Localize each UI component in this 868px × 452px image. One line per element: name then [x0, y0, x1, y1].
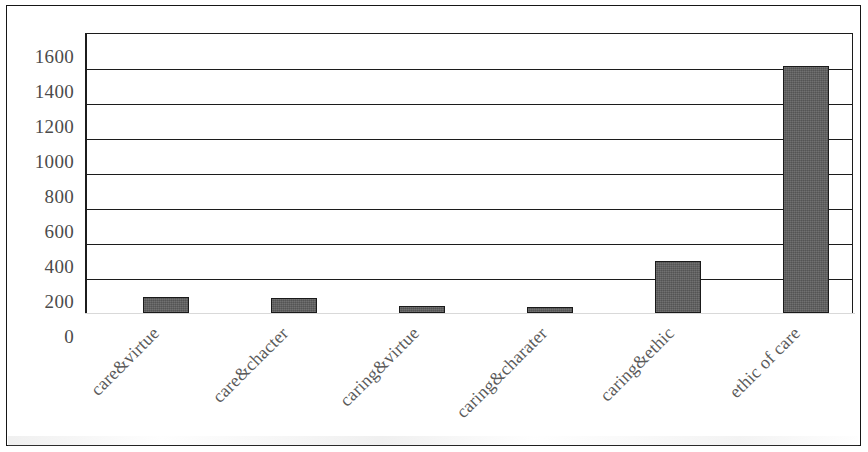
y-axis-tick-labels: 1600 1400 1200 1000 800 600 400 200 0 — [12, 24, 74, 324]
bar-chart: 1600 1400 1200 1000 800 600 400 200 0 — [0, 0, 868, 452]
bar — [271, 298, 317, 313]
x-axis-category-label: caring&virtue — [336, 323, 424, 411]
x-axis-category-label: care&chacter — [208, 323, 292, 407]
x-axis-category-label: care&virtue — [87, 323, 164, 400]
bars-layer — [87, 34, 852, 313]
y-axis-tick-label: 1400 — [12, 82, 74, 101]
x-axis-category-labels: care&virtue care&chacter caring&virtue c… — [0, 313, 868, 452]
bar — [783, 66, 829, 313]
y-axis-tick-label: 600 — [12, 222, 74, 241]
x-axis-category-label: caring&ethic — [596, 323, 679, 406]
y-axis-tick-label: 800 — [12, 187, 74, 206]
x-axis-category-label: ethic of care — [725, 323, 805, 403]
chart-screenshot: 1600 1400 1200 1000 800 600 400 200 0 — [0, 0, 868, 452]
x-axis-category-label: caring&charater — [452, 323, 552, 423]
y-axis-tick-label: 400 — [12, 257, 74, 276]
bar — [399, 306, 445, 313]
scan-artifact — [8, 436, 858, 446]
y-axis-tick-label: 1600 — [12, 47, 74, 66]
bar — [655, 261, 701, 314]
plot-area — [85, 33, 853, 313]
y-axis-tick-label: 1000 — [12, 152, 74, 171]
y-axis-tick-label: 200 — [12, 292, 74, 311]
y-axis-tick-label: 1200 — [12, 117, 74, 136]
bar — [143, 297, 189, 313]
